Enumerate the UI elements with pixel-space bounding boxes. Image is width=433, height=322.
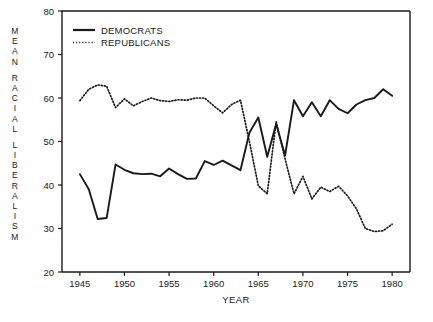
- series-line-republicans: [80, 85, 392, 232]
- legend-label-democrats: DEMOCRATS: [101, 25, 163, 36]
- x-tick-label: 1950: [114, 278, 135, 289]
- legend-label-republicans: REPUBLICANS: [101, 37, 170, 48]
- y-tick-label: 80: [43, 6, 54, 17]
- chart-legend: DEMOCRATSREPUBLICANS: [73, 25, 170, 49]
- y-tick-label: 60: [43, 93, 54, 104]
- chart-figure: MEANRACIALLIBERALISM 20304050607080 1945…: [0, 0, 433, 322]
- y-tick-label: 30: [43, 223, 54, 234]
- x-tick-label: 1960: [203, 278, 224, 289]
- line-chart-plot: 20304050607080 1945195019551960196519701…: [0, 0, 433, 322]
- y-tick-label: 70: [43, 49, 54, 60]
- y-tick-label: 50: [43, 136, 54, 147]
- x-axis-ticks: 19451950195519601965197019751980: [69, 272, 402, 289]
- x-tick-label: 1970: [292, 278, 313, 289]
- y-tick-label: 40: [43, 180, 54, 191]
- series-line-democrats: [80, 89, 392, 219]
- data-series-group: [80, 85, 392, 232]
- x-axis-label: YEAR: [222, 294, 249, 305]
- y-axis-ticks: 20304050607080: [43, 6, 62, 278]
- x-tick-label: 1955: [159, 278, 180, 289]
- x-tick-label: 1965: [248, 278, 269, 289]
- y-tick-label: 20: [43, 267, 54, 278]
- x-tick-label: 1945: [69, 278, 90, 289]
- x-tick-label: 1975: [337, 278, 358, 289]
- x-tick-label: 1980: [382, 278, 403, 289]
- chart-axes: [62, 11, 410, 272]
